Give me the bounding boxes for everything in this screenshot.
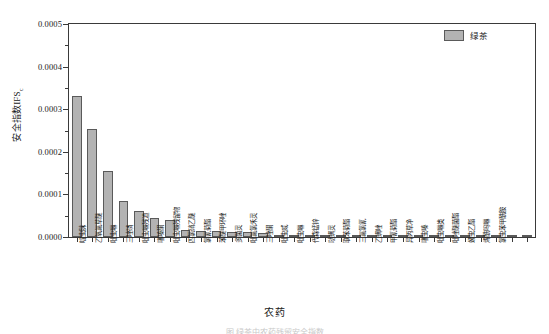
x-axis-ticklabel: 氯氰菊酯	[204, 219, 211, 243]
x-axis-ticklabel: 螺虫乙酯	[468, 219, 475, 243]
x-axis-tick	[217, 238, 218, 242]
x-axis-ticklabel: 吡虫啉类	[437, 219, 444, 243]
x-axis-tick	[77, 238, 78, 242]
x-axis-tick	[512, 238, 513, 242]
x-axis-tick	[201, 238, 202, 242]
x-axis-tick	[341, 238, 342, 242]
y-axis-ticklabel: 0.0003	[38, 105, 62, 114]
legend: 绿茶	[444, 29, 489, 41]
x-axis-tick	[310, 238, 311, 242]
x-axis-ticklabel: 噻虫嗪	[421, 225, 428, 243]
x-axis-tick	[263, 238, 264, 242]
x-axis-tick	[154, 238, 155, 242]
x-axis-tick	[496, 238, 497, 242]
legend-swatch-icon	[444, 30, 464, 41]
x-axis-ticklabel: 吡唑醚菌酯	[452, 213, 459, 244]
bar	[522, 235, 532, 237]
x-axis-tick	[186, 238, 187, 242]
y-axis-ticklabel: 0.0004	[38, 62, 62, 71]
x-axis-ticklabel: 氯虫苯甲酰胺	[499, 206, 506, 243]
y-axis-ticklabel: 0.0001	[38, 190, 62, 199]
x-axis-ticklabel: 联苯菊酯	[343, 219, 350, 243]
x-axis-ticklabel: 吡虫啉残渣	[142, 213, 149, 244]
x-axis-tick	[232, 238, 233, 242]
x-axis-ticklabel: 啶虫脒	[79, 225, 86, 243]
x-axis-ticklabel: 四氯硝乙醚	[188, 213, 195, 244]
x-axis-tick	[403, 238, 404, 242]
x-axis-tick	[170, 238, 171, 242]
x-axis-tick	[419, 238, 420, 242]
legend-label: 绿茶	[470, 29, 489, 41]
y-axis-ticklabel: 0.0000	[38, 233, 62, 242]
y-axis-ticklabel: 0.0002	[38, 147, 62, 156]
x-axis-tick	[325, 238, 326, 242]
y-axis-title-text: 安全指数IFS	[12, 91, 22, 141]
x-axis-ticklabel: 烯酰吗啉	[483, 219, 490, 243]
x-axis-ticklabel: 多菌灵	[235, 225, 242, 243]
x-axis-tick	[248, 238, 249, 242]
x-axis-ticklabel: 三氟氯氰	[359, 219, 366, 243]
y-axis-title-subscript: c	[17, 88, 24, 91]
bar	[72, 96, 82, 237]
x-axis-ticklabel: 吡虫啉	[297, 225, 304, 243]
x-axis-ticklabel: 乙螨唑	[375, 225, 382, 243]
x-axis-ticklabel: 乙氧氟草醚	[95, 213, 102, 244]
x-axis-ticklabel: 吡虫威	[281, 225, 288, 243]
y-axis-ticklabel: 0.0005	[38, 20, 62, 29]
x-axis-title: 农药	[0, 304, 549, 319]
x-axis-ticklabel: 吡氟氯禾灵	[250, 213, 257, 244]
x-axis-ticklabel: 甲氰菊酯	[390, 219, 397, 243]
x-axis-ticklabel: 三唑磷	[126, 225, 133, 243]
x-axis-ticklabel: 哒螨灵	[328, 225, 335, 243]
x-axis-tick	[92, 238, 93, 242]
x-axis-tick	[387, 238, 388, 242]
x-axis-tick	[294, 238, 295, 242]
x-axis-tick	[527, 238, 528, 242]
bars-layer	[69, 24, 535, 237]
x-axis-ticklabel: 三唑酮	[266, 225, 273, 243]
x-axis-tick	[481, 238, 482, 242]
bar	[507, 235, 517, 237]
x-axis-tick	[279, 238, 280, 242]
x-axis-ticklabel: 吡虫啉残留物	[173, 206, 180, 243]
x-axis-tick	[108, 238, 109, 242]
x-axis-ticklabel: 异丙草净	[406, 219, 413, 243]
x-axis-tick	[139, 238, 140, 242]
x-axis-tick	[434, 238, 435, 242]
x-axis-ticklabel: 代森锰锌	[312, 219, 319, 243]
x-axis-ticklabel: 吡虫啉	[110, 225, 117, 243]
x-axis-ticklabel: 苯醚甲环唑	[219, 213, 226, 244]
figure-caption: 图 绿茶中农药残留安全指数	[0, 326, 549, 334]
x-axis-tick	[123, 238, 124, 242]
x-axis-tick	[465, 238, 466, 242]
y-axis-title: 安全指数IFSc	[10, 60, 24, 170]
x-axis-tick	[450, 238, 451, 242]
chart-container: 0.00000.00010.00020.00030.00040.0005 安全指…	[0, 0, 549, 334]
x-axis-tick	[372, 238, 373, 242]
x-axis-tick	[356, 238, 357, 242]
x-axis-ticklabel: 噻嗪酮	[157, 225, 164, 243]
x-axis-ticklabels: 啶虫脒乙氧氟草醚吡虫啉三唑磷吡虫啉残渣噻嗪酮吡虫啉残留物四氯硝乙醚氯氰菊酯苯醚甲…	[69, 243, 535, 301]
